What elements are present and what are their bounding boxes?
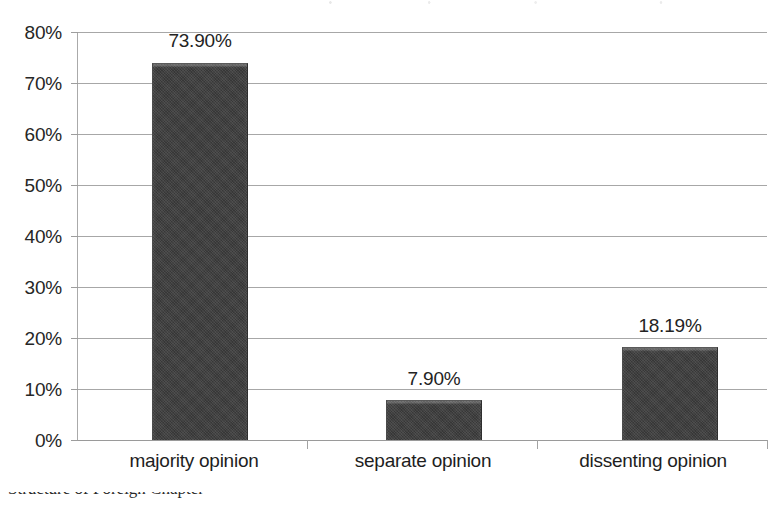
y-axis-label-70: 70%: [0, 74, 62, 93]
data-label-separate-opinion: 7.90%: [386, 369, 482, 388]
y-tick-0: [71, 440, 78, 441]
bar-dissenting-opinion[interactable]: [622, 347, 718, 440]
y-axis-label-60: 60%: [0, 125, 62, 144]
y-axis-label-40: 40%: [0, 227, 62, 246]
y-axis-label-50: 50%: [0, 176, 62, 195]
data-label-majority-opinion: 73.90%: [152, 31, 248, 50]
bar-majority-opinion[interactable]: [152, 63, 248, 440]
y-axis-label-80: 80%: [0, 23, 62, 42]
y-tick-40: [71, 236, 78, 237]
y-tick-10: [71, 389, 78, 390]
gridline-0-baseline: [77, 440, 767, 441]
y-tick-60: [71, 134, 78, 135]
y-axis-label-10: 10%: [0, 380, 62, 399]
y-tick-50: [71, 185, 78, 186]
x-axis-label-separate-opinion: separate opinion: [308, 450, 538, 472]
x-axis-label-dissenting-opinion: dissenting opinion: [538, 450, 768, 472]
x-axis-label-majority-opinion: majority opinion: [80, 450, 308, 472]
y-tick-30: [71, 287, 78, 288]
y-tick-70: [71, 83, 78, 84]
figure-caption-text: Structure of Foreign Chapter: [8, 492, 308, 497]
figure-caption-cutoff: Structure of Foreign Chapter: [8, 492, 308, 507]
bar-separate-opinion[interactable]: [386, 400, 482, 440]
y-tick-20: [71, 338, 78, 339]
y-axis-label-0: 0%: [0, 431, 62, 450]
bar-chart: 80% 70% 60% 50% 40% 30% 20% 10% 0% 73.90…: [0, 0, 774, 507]
scan-artifact: [300, 1, 680, 4]
data-label-dissenting-opinion: 18.19%: [622, 316, 718, 335]
x-tick-2: [537, 440, 538, 449]
y-axis-label-30: 30%: [0, 278, 62, 297]
x-tick-1: [307, 440, 308, 449]
y-tick-80: [71, 32, 78, 33]
y-axis-label-20: 20%: [0, 329, 62, 348]
x-tick-3: [767, 440, 768, 449]
